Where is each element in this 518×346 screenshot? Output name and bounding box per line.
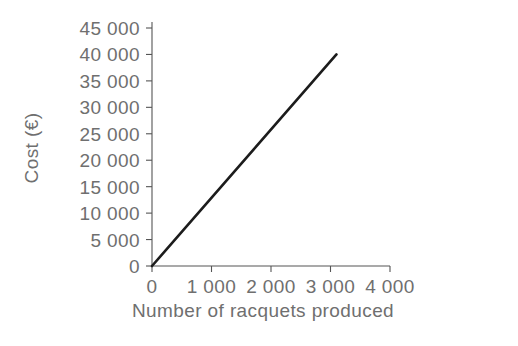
y-tick-label-20000: 20 000: [56, 150, 140, 172]
y-tick-label-15000: 15 000: [56, 177, 140, 199]
y-tick-label-40000: 40 000: [56, 44, 140, 66]
cost-data-line: [152, 54, 336, 266]
x-axis-title: Number of racquets produced: [118, 300, 408, 322]
y-axis-ticks: [146, 28, 152, 266]
y-axis-title: Cost (€): [21, 88, 43, 208]
y-tick-label-30000: 30 000: [56, 97, 140, 119]
y-tick-label-25000: 25 000: [56, 124, 140, 146]
x-axis-ticks: [152, 266, 390, 272]
y-tick-label-45000: 45 000: [56, 18, 140, 40]
y-tick-label-35000: 35 000: [56, 71, 140, 93]
x-tick-label-0: 0: [122, 276, 182, 298]
y-tick-label-0: 0: [56, 256, 140, 278]
y-tick-label-5000: 5 000: [56, 230, 140, 252]
chart-figure: 45 000 40 000 35 000 30 000 25 000 20 00…: [0, 0, 518, 346]
y-tick-label-10000: 10 000: [56, 203, 140, 225]
x-tick-label-4000: 4 000: [356, 276, 425, 298]
